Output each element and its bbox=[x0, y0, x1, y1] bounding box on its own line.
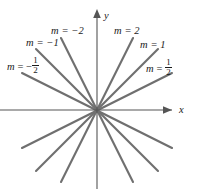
slope-label-m-neg1: m = −1 bbox=[26, 38, 59, 49]
coordinate-plane-svg bbox=[0, 0, 197, 189]
y-axis-label: y bbox=[104, 11, 109, 22]
slope-label-denominator: 2 bbox=[32, 66, 39, 75]
x-axis-label: x bbox=[179, 105, 184, 116]
x-axis-arrow-icon bbox=[163, 106, 172, 114]
slope-label-m-half: m = 12 bbox=[146, 59, 172, 78]
slope-label-m-1: m = 1 bbox=[140, 40, 166, 51]
slope-lines-figure: y x m = −2 m = −1 m = −12 m = 2 m = 1 m … bbox=[0, 0, 197, 189]
slope-label-m-symbol: m bbox=[7, 61, 15, 72]
slope-label-denominator: 2 bbox=[165, 68, 172, 77]
y-axis-arrow-icon bbox=[93, 9, 101, 18]
slope-label-m-2: m = 2 bbox=[114, 26, 140, 37]
slope-label-m-neg2: m = −2 bbox=[51, 26, 84, 37]
slope-label-m-symbol: m bbox=[146, 63, 154, 74]
slope-label-m-neg-half: m = −12 bbox=[7, 57, 39, 76]
